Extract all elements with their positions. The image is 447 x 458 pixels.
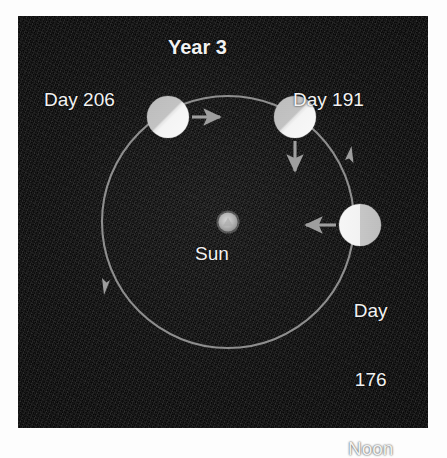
planet-day-206 — [147, 96, 189, 138]
label-day-176-line-2: 176 — [348, 368, 393, 391]
sun-body — [217, 211, 240, 234]
planet-day-176 — [339, 204, 381, 246]
orbit-direction-arrowhead-left — [102, 278, 110, 295]
figure-canvas: Year 3 Day 206 Day 191 Sun Day 176 Noon — [0, 0, 447, 458]
label-day-176-noon: Day 176 Noon — [348, 253, 393, 458]
label-day-176-line-3: Noon — [348, 437, 393, 458]
label-day-206: Day 206 — [44, 89, 115, 111]
label-day-191: Day 191 — [293, 89, 364, 111]
figure-title: Year 3 — [168, 36, 227, 58]
label-sun: Sun — [195, 243, 229, 265]
label-day-176-line-1: Day — [348, 299, 393, 322]
orbit-direction-arrowhead-right — [345, 146, 354, 163]
